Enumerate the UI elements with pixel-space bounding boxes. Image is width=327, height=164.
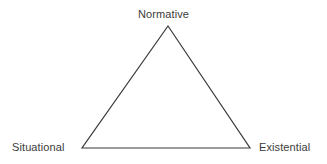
vertex-label-normative: Normative bbox=[138, 8, 189, 21]
triangle-outline bbox=[82, 26, 250, 148]
vertex-label-existential: Existential bbox=[259, 141, 310, 154]
diagram-canvas: Normative Situational Existential bbox=[0, 0, 327, 164]
triangle-shape bbox=[0, 0, 327, 164]
vertex-label-situational: Situational bbox=[12, 141, 64, 154]
